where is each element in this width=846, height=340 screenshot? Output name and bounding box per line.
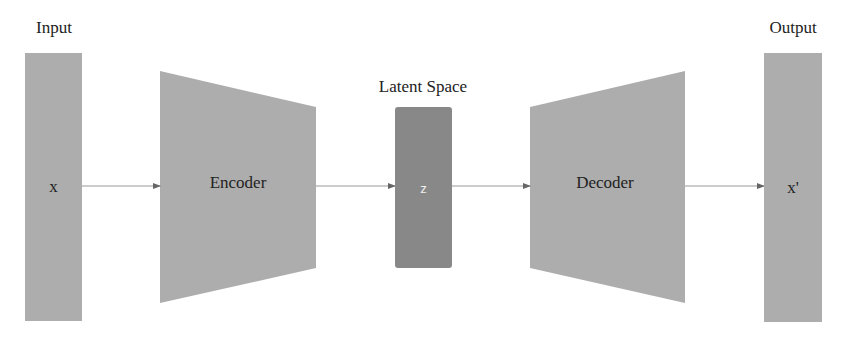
latent-symbol: z [420, 180, 427, 195]
latent-block: z [395, 107, 452, 268]
output-block: x' [764, 53, 822, 322]
output-symbol: x' [787, 178, 799, 198]
encoder-label: Encoder [210, 173, 267, 193]
input-symbol: x [49, 177, 58, 197]
decoder-label: Decoder [576, 173, 634, 193]
input-block: x [25, 53, 82, 321]
